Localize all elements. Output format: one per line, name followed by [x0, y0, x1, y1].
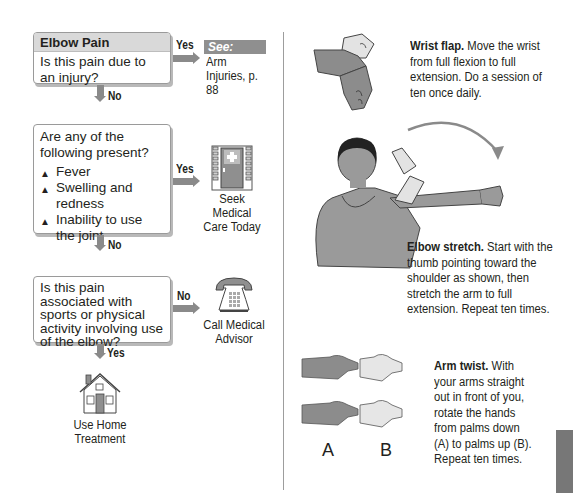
- no-label: No: [108, 238, 122, 252]
- exercise-name: Wrist flap.: [410, 39, 464, 53]
- yes-label: Yes: [107, 346, 125, 360]
- outcome-call-advisor: Call Medical Advisor: [198, 276, 270, 346]
- outcome-home-treatment: Use Home Treatment: [65, 372, 135, 446]
- question-text: Is this pain due to an injury?: [34, 52, 170, 89]
- outcome-label: Seek Medical Care Today: [201, 192, 264, 234]
- no-connector-arrow: [97, 235, 104, 245]
- symptom-item: ▲Fever: [40, 164, 164, 180]
- question-text: Are any of the following present?: [34, 125, 170, 164]
- label-b: B: [380, 440, 392, 461]
- arm-twist-illustration: [302, 355, 422, 435]
- question-box-injury: Elbow Pain Is this pain due to an injury…: [33, 32, 171, 84]
- no-connector-arrow: [97, 85, 104, 96]
- no-label: No: [177, 289, 191, 303]
- exercise-description: Wrist flap. Move the wrist from full fle…: [410, 39, 545, 101]
- see-tag: See:: [204, 40, 266, 54]
- flowchart-title: Elbow Pain: [34, 33, 170, 52]
- exercise-description: Elbow stretch. Start with the thumb poin…: [407, 240, 556, 318]
- yes-connector-arrow: [173, 55, 193, 62]
- exercise-name: Elbow stretch.: [407, 240, 484, 254]
- yes-connector-arrow: [173, 178, 193, 185]
- page-thumb-tab: [556, 430, 573, 493]
- question-text: Is this pain associated with sports or p…: [34, 277, 170, 352]
- question-box-symptoms: Are any of the following present? ▲Fever…: [33, 124, 171, 234]
- no-connector-arrow: [173, 305, 193, 312]
- question-box-sports: Is this pain associated with sports or p…: [33, 276, 171, 343]
- triangle-bullet-icon: ▲: [40, 214, 50, 230]
- label-a: A: [322, 440, 334, 461]
- outcome-label: Use Home Treatment: [69, 418, 132, 446]
- outcome-seek-care: Seek Medical Care Today: [197, 146, 267, 234]
- yes-label: Yes: [176, 162, 194, 176]
- exercise-description: Arm twist. With your arms straight out i…: [434, 359, 538, 468]
- exercise-text: With your arms straight out in front of …: [434, 359, 532, 466]
- telephone-icon: [214, 276, 254, 316]
- triangle-bullet-icon: ▲: [40, 182, 50, 198]
- exercise-name: Arm twist.: [434, 359, 488, 373]
- outcome-label: Call Medical Advisor: [202, 318, 267, 346]
- symptom-item: ▲Swelling and redness: [40, 180, 164, 212]
- cross-reference-link[interactable]: Arm Injuries, p. 88: [206, 55, 264, 97]
- clinic-door-icon: [212, 146, 252, 192]
- house-icon: [78, 372, 122, 414]
- yes-connector-arrow: [97, 344, 104, 353]
- no-label: No: [108, 89, 122, 103]
- yes-label: Yes: [176, 38, 194, 52]
- column-divider: [283, 32, 284, 490]
- wrist-flap-illustration: [314, 32, 394, 112]
